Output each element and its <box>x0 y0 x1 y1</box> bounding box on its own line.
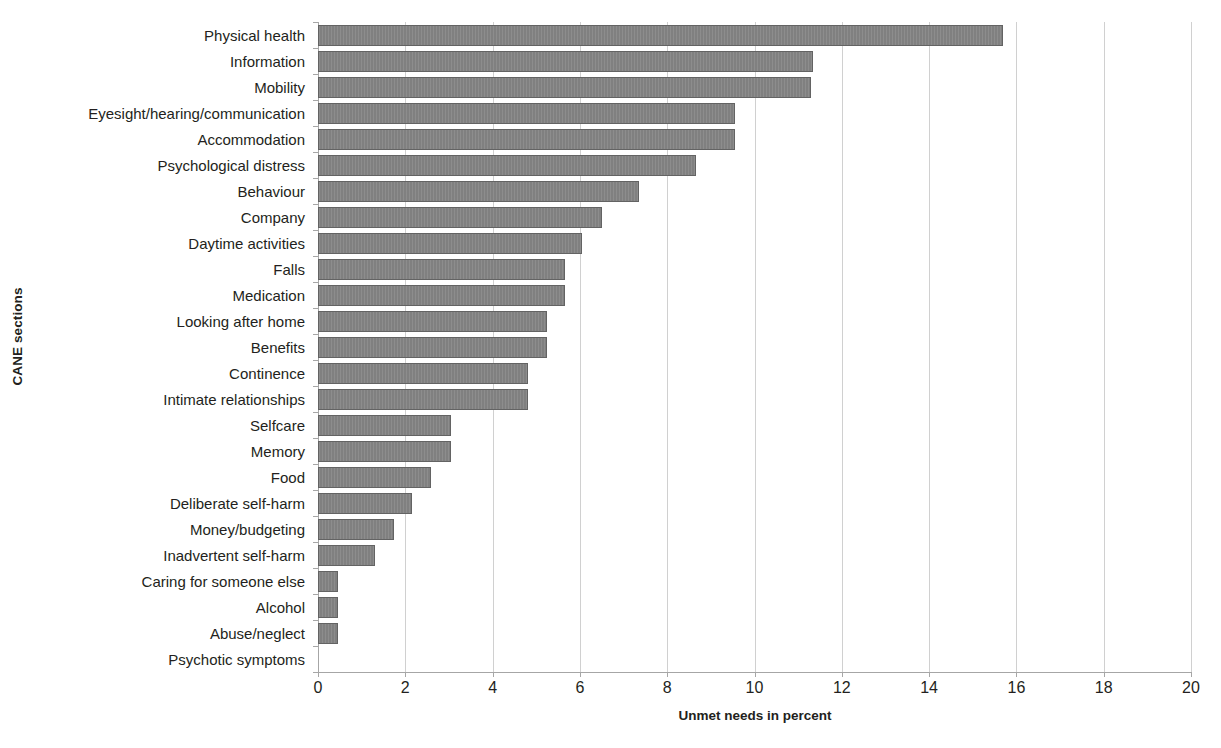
category-tick <box>313 412 318 413</box>
category-label: Information <box>40 48 312 74</box>
category-label: Mobility <box>40 74 312 100</box>
category-label: Alcohol <box>40 594 312 620</box>
category-tick <box>313 334 318 335</box>
bar-row <box>318 464 1191 490</box>
category-label: Selfcare <box>40 412 312 438</box>
category-label: Medication <box>40 282 312 308</box>
plot-area <box>318 22 1191 672</box>
x-tick <box>1016 672 1017 677</box>
x-tick <box>929 672 930 677</box>
bar-row <box>318 230 1191 256</box>
category-label: Accommodation <box>40 126 312 152</box>
category-label: Behaviour <box>40 178 312 204</box>
bar <box>318 51 813 72</box>
x-tick-label: 10 <box>746 679 764 697</box>
category-label: Continence <box>40 360 312 386</box>
x-tick-label: 14 <box>920 679 938 697</box>
category-tick <box>313 178 318 179</box>
category-label: Money/budgeting <box>40 516 312 542</box>
bar-chart: CANE sections Physical healthInformation… <box>0 0 1221 748</box>
category-label: Eyesight/hearing/communication <box>40 100 312 126</box>
category-tick <box>313 126 318 127</box>
x-tick <box>842 672 843 677</box>
category-label: Memory <box>40 438 312 464</box>
bar <box>318 441 451 462</box>
bar <box>318 597 338 618</box>
bar <box>318 467 431 488</box>
category-label: Falls <box>40 256 312 282</box>
x-axis-title: Unmet needs in percent <box>318 708 1192 723</box>
bar-row <box>318 594 1191 620</box>
category-tick <box>313 464 318 465</box>
category-label: Psychotic symptoms <box>40 646 312 672</box>
y-axis-title-text: CANE sections <box>10 287 25 385</box>
bar-row <box>318 334 1191 360</box>
bar-row <box>318 308 1191 334</box>
bar-row <box>318 152 1191 178</box>
x-tick-label: 4 <box>488 679 497 697</box>
bar-row <box>318 438 1191 464</box>
category-tick <box>313 438 318 439</box>
category-tick <box>313 256 318 257</box>
category-tick <box>313 620 318 621</box>
bar-row <box>318 126 1191 152</box>
bar <box>318 155 696 176</box>
category-label: Inadvertent self-harm <box>40 542 312 568</box>
category-label: Food <box>40 464 312 490</box>
bar <box>318 259 565 280</box>
category-label: Physical health <box>40 22 312 48</box>
bar <box>318 181 639 202</box>
category-axis-labels: Physical healthInformationMobilityEyesig… <box>40 22 312 672</box>
bar-row <box>318 282 1191 308</box>
category-label: Caring for someone else <box>40 568 312 594</box>
bar <box>318 311 547 332</box>
category-tick <box>313 490 318 491</box>
category-label: Intimate relationships <box>40 386 312 412</box>
bar-row <box>318 542 1191 568</box>
bar-row <box>318 100 1191 126</box>
category-tick <box>313 22 318 23</box>
bar-row <box>318 386 1191 412</box>
category-label: Daytime activities <box>40 230 312 256</box>
bar-row <box>318 516 1191 542</box>
x-tick-label: 2 <box>401 679 410 697</box>
x-tick-label: 20 <box>1182 679 1200 697</box>
category-label: Looking after home <box>40 308 312 334</box>
bar-row <box>318 22 1191 48</box>
x-tick-label: 0 <box>314 679 323 697</box>
bar <box>318 25 1003 46</box>
category-tick <box>313 204 318 205</box>
category-tick <box>313 594 318 595</box>
bar <box>318 571 338 592</box>
x-tick-label: 16 <box>1007 679 1025 697</box>
x-tick <box>318 672 319 677</box>
x-tick <box>755 672 756 677</box>
category-label: Company <box>40 204 312 230</box>
bar <box>318 285 565 306</box>
category-tick <box>313 48 318 49</box>
bar <box>318 363 528 384</box>
category-tick <box>313 100 318 101</box>
bar <box>318 389 528 410</box>
category-tick <box>313 386 318 387</box>
bar <box>318 233 582 254</box>
category-tick <box>313 74 318 75</box>
category-label: Benefits <box>40 334 312 360</box>
bar-series <box>318 22 1191 672</box>
bar <box>318 623 338 644</box>
category-label: Deliberate self-harm <box>40 490 312 516</box>
bar-row <box>318 48 1191 74</box>
x-tick <box>1191 672 1192 677</box>
bar-row <box>318 256 1191 282</box>
x-axis-tick-labels: 02468101214161820 <box>318 679 1192 703</box>
bar <box>318 545 375 566</box>
x-tick <box>493 672 494 677</box>
x-tick <box>580 672 581 677</box>
bar <box>318 415 451 436</box>
category-label: Psychological distress <box>40 152 312 178</box>
category-tick <box>313 230 318 231</box>
bar-row <box>318 490 1191 516</box>
y-axis-title: CANE sections <box>0 0 34 672</box>
x-tick-label: 6 <box>575 679 584 697</box>
bar-row <box>318 412 1191 438</box>
